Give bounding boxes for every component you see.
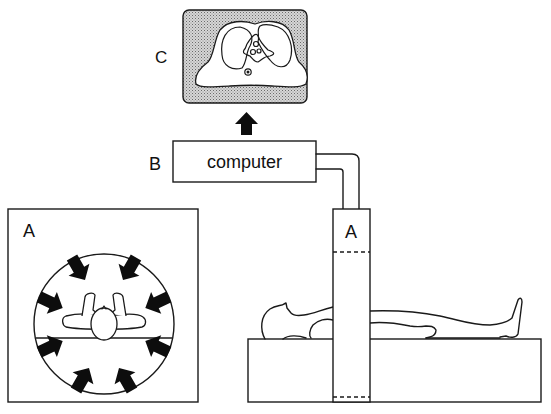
label-b: B (149, 154, 161, 174)
computer-label: computer (207, 152, 282, 172)
patient-table (248, 339, 541, 402)
label-a-cross-section: A (23, 221, 35, 241)
label-c: C (155, 48, 167, 67)
ct-scanner-diagram: C computer B (0, 0, 551, 414)
patient-side (262, 298, 522, 339)
scanner-side-view (248, 209, 541, 402)
gantry-cross-section-panel (8, 209, 198, 402)
monitor-display (183, 10, 307, 103)
label-a-side-view: A (345, 222, 357, 242)
data-cable (316, 154, 359, 209)
computer-box: computer (173, 141, 316, 182)
arrow-up-icon (235, 112, 258, 135)
